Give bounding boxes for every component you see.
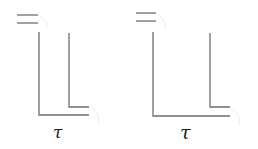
diagram-canvas: τ τ: [0, 0, 258, 149]
figure-right: τ: [136, 13, 239, 143]
tau-label: τ: [180, 121, 191, 143]
inner-bracket: [210, 33, 230, 107]
tau-label: τ: [53, 122, 63, 142]
outer-bracket: [153, 32, 230, 116]
faint-arrow-mark: [40, 17, 48, 27]
figure-left: τ: [17, 15, 98, 142]
outer-bracket: [39, 32, 89, 115]
faint-arrow-mark: [158, 15, 166, 29]
faint-arrow-mark: [92, 108, 98, 124]
inner-bracket: [69, 33, 89, 107]
faint-arrow-mark: [233, 110, 239, 126]
